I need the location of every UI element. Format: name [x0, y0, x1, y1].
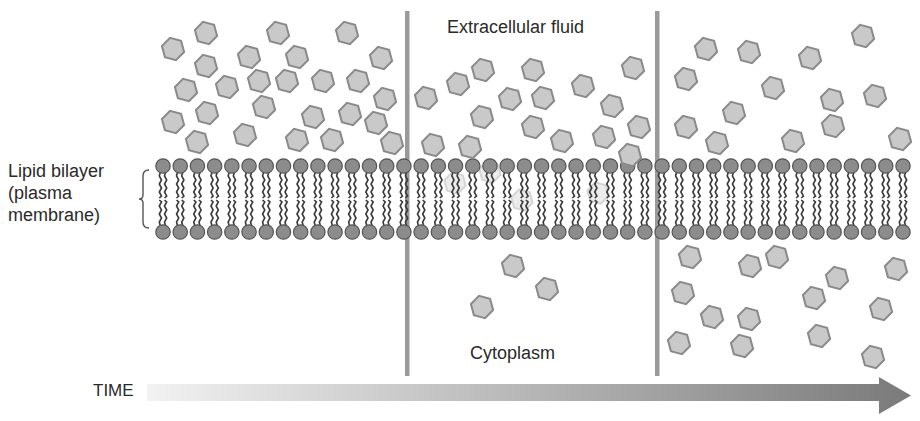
molecule-hexagon-icon: [862, 346, 884, 368]
lipid-head-icon: [448, 159, 462, 173]
molecule-hexagon-icon: [472, 59, 494, 81]
phospholipid: [483, 159, 497, 239]
phospholipid: [827, 159, 841, 239]
phospholipid: [672, 159, 686, 239]
molecule-hexagon-icon: [162, 111, 184, 133]
lipid-head-icon: [569, 225, 583, 239]
lipid-head-icon: [276, 225, 290, 239]
molecule-hexagon-icon: [471, 106, 493, 128]
phospholipid: [775, 159, 789, 239]
molecule-hexagon-icon: [253, 96, 275, 118]
lipid-head-icon: [741, 159, 755, 173]
lipid-head-icon: [793, 225, 807, 239]
lipid-head-icon: [448, 225, 462, 239]
molecule-hexagon-icon: [679, 246, 701, 268]
lipid-head-icon: [431, 225, 445, 239]
phospholipid: [431, 159, 445, 239]
phospholipid: [414, 159, 428, 239]
lipid-head-icon: [293, 159, 307, 173]
molecule-hexagon-icon: [471, 296, 493, 318]
molecule-hexagon-icon: [723, 102, 745, 124]
lipid-head-icon: [190, 159, 204, 173]
membrane-bracket: [139, 170, 149, 228]
molecule-hexagon-icon: [803, 287, 825, 309]
lipid-bilayer: [156, 159, 910, 239]
lipid-head-icon: [362, 225, 376, 239]
molecule-hexagon-icon: [347, 70, 369, 92]
molecule-hexagon-icon: [415, 87, 437, 109]
molecule-hexagon-icon: [234, 124, 256, 146]
lipid-head-icon: [276, 159, 290, 173]
lipid-head-icon: [810, 159, 824, 173]
lipid-head-icon: [844, 225, 858, 239]
molecule-hexagon-icon: [738, 41, 760, 63]
lipid-head-icon: [207, 225, 221, 239]
time-label: TIME: [93, 381, 134, 401]
molecule-hexagon-icon: [885, 258, 907, 280]
molecule-hexagon-icon: [321, 129, 343, 151]
molecule-hexagon-icon: [522, 59, 544, 81]
molecule-hexagon-icon: [286, 129, 308, 151]
diagram-canvas: [0, 0, 920, 421]
molecule-hexagon-icon: [162, 38, 184, 60]
phospholipid: [190, 159, 204, 239]
lipid-head-icon: [380, 159, 394, 173]
lipid-head-icon: [362, 159, 376, 173]
phospholipid: [156, 159, 170, 239]
phospholipid: [362, 159, 376, 239]
lipid-head-icon: [672, 225, 686, 239]
lipid-head-icon: [225, 225, 239, 239]
lipid-head-icon: [638, 225, 652, 239]
phospholipid: [173, 159, 187, 239]
lipid-head-icon: [758, 159, 772, 173]
lipid-bilayer-label: Lipid bilayer (plasma membrane): [8, 160, 104, 226]
phospholipid: [620, 159, 634, 239]
lipid-head-icon: [311, 225, 325, 239]
molecule-hexagon-icon: [622, 57, 644, 79]
molecule-hexagon-icon: [195, 55, 217, 77]
lipid-head-icon: [724, 225, 738, 239]
lipid-head-icon: [431, 159, 445, 173]
label-line-3: membrane): [8, 204, 104, 226]
lipid-head-icon: [311, 159, 325, 173]
phospholipid: [225, 159, 239, 239]
lipid-head-icon: [758, 225, 772, 239]
lipid-head-icon: [896, 159, 910, 173]
molecule-hexagon-icon: [536, 278, 558, 300]
phospholipid: [345, 159, 359, 239]
lipid-head-icon: [380, 225, 394, 239]
molecule-hexagon-icon: [312, 70, 334, 92]
molecule-hexagon-icon: [195, 22, 217, 44]
molecule-hexagon-icon: [522, 116, 544, 138]
lipid-head-icon: [259, 159, 273, 173]
molecule-hexagon-icon: [336, 22, 358, 44]
molecule-hexagon-icon: [601, 95, 623, 117]
lipid-head-icon: [655, 225, 669, 239]
molecule-hexagon-icon: [444, 172, 465, 193]
lipid-head-icon: [552, 225, 566, 239]
molecule-hexagon-icon: [668, 332, 690, 354]
phospholipid: [706, 159, 720, 239]
lipid-head-icon: [861, 159, 875, 173]
molecule-hexagon-icon: [628, 116, 650, 138]
molecule-hexagon-icon: [799, 47, 821, 69]
lipid-head-icon: [879, 225, 893, 239]
molecule-hexagon-icon: [370, 47, 392, 69]
molecule-hexagon-icon: [238, 46, 260, 68]
extracellular-fluid-label: Extracellular fluid: [447, 17, 584, 38]
lipid-head-icon: [173, 159, 187, 173]
molecule-hexagon-icon: [593, 126, 615, 148]
molecule-hexagon-icon: [196, 102, 218, 124]
molecule-hexagon-icon: [365, 112, 387, 134]
molecule-hexagon-icon: [572, 75, 594, 97]
lipid-head-icon: [775, 225, 789, 239]
phospholipid: [638, 159, 652, 239]
lipid-head-icon: [466, 159, 480, 173]
lipid-head-icon: [483, 225, 497, 239]
lipid-head-icon: [397, 159, 411, 173]
label-line-2: (plasma: [8, 182, 104, 204]
molecule-hexagon-icon: [216, 76, 238, 98]
phospholipid: [293, 159, 307, 239]
lipid-head-icon: [552, 159, 566, 173]
phospholipid: [758, 159, 772, 239]
